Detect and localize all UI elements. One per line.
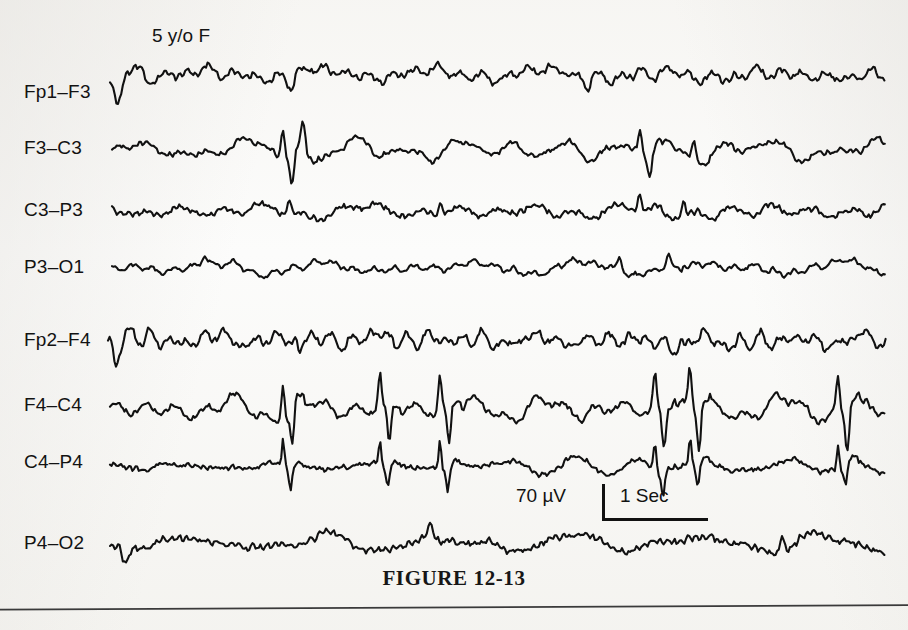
figure-caption: FIGURE 12-13 bbox=[0, 566, 908, 591]
time-scale-label: 1 Sec bbox=[620, 485, 669, 507]
amplitude-scale-label: 70 µV bbox=[516, 485, 566, 507]
channel-label: C4–P4 bbox=[24, 451, 83, 473]
channel-label: C3–P3 bbox=[24, 199, 83, 221]
caption-divider-rule bbox=[0, 602, 908, 611]
eeg-figure-page: 5 y/o F Fp1–F3F3–C3C3–P3P3–O1Fp2–F4F4–C4… bbox=[0, 0, 908, 630]
channel-label: P4–O2 bbox=[24, 532, 84, 554]
eeg-trace bbox=[112, 195, 885, 222]
eeg-trace bbox=[112, 254, 885, 279]
eeg-trace-layer bbox=[0, 0, 908, 630]
patient-annotation: 5 y/o F bbox=[152, 25, 210, 47]
channel-label: Fp1–F3 bbox=[24, 81, 91, 103]
channel-label: Fp2–F4 bbox=[24, 329, 91, 351]
channel-label: P3–O1 bbox=[24, 256, 84, 278]
channel-label: F3–C3 bbox=[24, 137, 82, 159]
eeg-trace bbox=[110, 439, 884, 496]
eeg-trace bbox=[110, 523, 884, 563]
eeg-trace bbox=[110, 62, 884, 104]
eeg-trace bbox=[110, 368, 884, 451]
channel-label: F4–C4 bbox=[24, 394, 82, 416]
eeg-trace bbox=[112, 122, 885, 184]
eeg-trace bbox=[108, 328, 886, 367]
